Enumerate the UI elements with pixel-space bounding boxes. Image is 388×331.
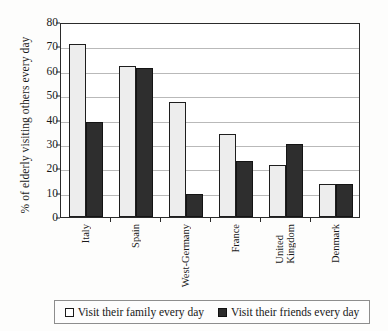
bar: [169, 102, 186, 217]
bar-group: [319, 24, 353, 217]
plot-area: [60, 23, 360, 218]
bar-group: [119, 24, 153, 217]
legend-item-family: Visit their family every day: [65, 306, 204, 318]
x-category-label: Spain: [129, 224, 141, 248]
y-axis-title-text: % of elderly visiting others every day: [19, 37, 31, 214]
bar-group: [269, 24, 303, 217]
bar: [319, 184, 336, 217]
x-category-label: West-Germany: [179, 224, 191, 287]
bar: [119, 66, 136, 217]
x-axis-tick-marks: [60, 218, 360, 223]
bar: [186, 194, 203, 217]
family-swatch-icon: [65, 308, 74, 317]
legend-item-friends: Visit their friends every day: [218, 306, 359, 318]
bar: [86, 122, 103, 217]
x-category-label-line: Spain: [130, 224, 141, 248]
y-axis-tick-labels: 01020304050607080: [34, 23, 58, 218]
x-tick-mark: [160, 218, 161, 222]
x-category-label: Italy: [79, 224, 91, 243]
bar-series-container: [61, 24, 359, 217]
bar: [286, 144, 303, 217]
x-category-label-line: Denmark: [330, 224, 341, 263]
y-axis-title: % of elderly visiting others every day: [14, 20, 36, 230]
x-tick-mark: [210, 218, 211, 222]
bar-group: [219, 24, 253, 217]
chart-page: % of elderly visiting others every day 0…: [0, 0, 388, 331]
friends-swatch-icon: [218, 308, 227, 317]
bar: [219, 134, 236, 217]
bar: [136, 68, 153, 217]
bar-group: [69, 24, 103, 217]
x-category-label-line: France: [230, 224, 241, 253]
legend-label-friends: Visit their friends every day: [231, 306, 359, 318]
legend-label-family: Visit their family every day: [78, 306, 204, 318]
x-category-label: Denmark: [329, 224, 341, 263]
x-category-label: France: [229, 224, 241, 253]
x-tick-mark: [310, 218, 311, 222]
x-axis-category-labels: ItalySpainWest-GermanyFranceUnitedKingdo…: [60, 224, 360, 294]
bar: [236, 161, 253, 217]
x-tick-mark: [110, 218, 111, 222]
x-category-label-line: Kingdom: [285, 224, 296, 264]
bar: [269, 165, 286, 217]
x-tick-mark: [260, 218, 261, 222]
x-category-label-line: Italy: [80, 224, 91, 243]
bar: [69, 44, 86, 217]
bar-group: [169, 24, 203, 217]
x-category-label-line: United: [274, 224, 285, 264]
x-category-label-line: West-Germany: [180, 224, 191, 287]
x-category-label: UnitedKingdom: [273, 224, 297, 264]
chart-legend: Visit their family every day Visit their…: [54, 300, 370, 324]
bar: [336, 184, 353, 217]
